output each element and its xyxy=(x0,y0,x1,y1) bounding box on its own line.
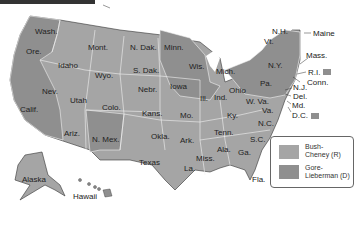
label-ind: Ind. xyxy=(214,94,227,102)
label-mont: Mont. xyxy=(88,44,108,52)
label-ri: R.I. xyxy=(308,69,320,77)
label-nmex: N. Mex. xyxy=(92,136,120,144)
label-nc: N.C. xyxy=(258,120,274,128)
label-miss: Miss. xyxy=(196,155,215,163)
label-wash: Wash. xyxy=(35,28,57,36)
label-nh: N.H. xyxy=(272,28,288,36)
label-ga: Ga. xyxy=(238,149,251,157)
legend-swatch-bush xyxy=(279,145,299,159)
label-sc: S.C. xyxy=(250,136,266,144)
map-gore-nmex xyxy=(86,110,124,152)
label-okla: Okla. xyxy=(151,133,170,141)
legend-bush-line1: Bush- xyxy=(305,143,323,150)
label-mass: Mass. xyxy=(306,52,327,60)
ri-swatch xyxy=(323,69,331,75)
label-mich: Mich. xyxy=(216,68,235,76)
label-nj: N.J. xyxy=(293,84,307,92)
label-ill: Ill. xyxy=(200,95,208,103)
label-wis: Wis. xyxy=(189,63,205,71)
legend-label-bush: Bush- Cheney (R) xyxy=(305,143,341,159)
label-mo: Mo. xyxy=(180,112,193,120)
label-ore: Ore. xyxy=(26,48,42,56)
label-sdak: S. Dak. xyxy=(133,67,159,75)
label-kans: Kans. xyxy=(142,110,162,118)
label-pa: Pa. xyxy=(260,80,272,88)
label-colo: Colo. xyxy=(102,104,121,112)
label-utah: Utah xyxy=(70,97,87,105)
label-wva: W. Va. xyxy=(246,98,269,106)
label-la: La. xyxy=(184,165,195,173)
label-maine: Maine xyxy=(313,30,335,38)
legend: Bush- Cheney (R) Gore- Lieberman (D) xyxy=(270,136,354,188)
label-wyo: Wyo. xyxy=(95,72,113,80)
label-ohio: Ohio xyxy=(229,87,246,95)
label-fla: Fla. xyxy=(252,176,265,184)
label-dc: D.C. xyxy=(292,112,308,120)
label-ky: Ky. xyxy=(227,112,238,120)
label-ariz: Ariz. xyxy=(64,130,80,138)
label-iowa: Iowa xyxy=(170,83,187,91)
label-va: Va. xyxy=(262,107,273,115)
label-ala: Ala. xyxy=(217,146,231,154)
label-idaho: Idaho xyxy=(58,62,78,70)
legend-gore-line1: Gore- xyxy=(305,164,323,171)
label-md: Md. xyxy=(292,102,305,110)
label-del: Del. xyxy=(293,93,307,101)
label-conn: Conn. xyxy=(307,79,328,87)
label-nebr: Nebr. xyxy=(138,86,157,94)
label-vt: Vt. xyxy=(264,38,274,46)
label-ndak: N. Dak. xyxy=(130,44,157,52)
label-calif: Calif. xyxy=(20,106,38,114)
legend-label-gore: Gore- Lieberman (D) xyxy=(305,164,350,180)
label-alaska: Alaska xyxy=(22,176,46,184)
legend-gore-line2: Lieberman (D) xyxy=(305,172,350,179)
label-hawaii: Hawaii xyxy=(73,193,97,201)
label-ark: Ark. xyxy=(180,137,194,145)
label-tenn: Tenn. xyxy=(214,129,234,137)
label-minn: Minn. xyxy=(164,44,184,52)
legend-swatch-gore xyxy=(279,165,299,179)
legend-bush-line2: Cheney (R) xyxy=(305,151,341,158)
label-ny: N.Y. xyxy=(268,62,283,70)
dc-swatch xyxy=(311,113,319,119)
label-nev: Nev. xyxy=(42,88,58,96)
label-texas: Texas xyxy=(139,159,160,167)
